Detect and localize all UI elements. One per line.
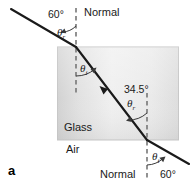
inside-top-theta-subscript: i [85,69,87,77]
top-theta-subscript: r [62,33,65,41]
bottom-normal-label: Normal [100,169,135,180]
top-normal-label: Normal [84,7,119,18]
incident-ray [11,9,76,47]
top-theta-r-label: θr [57,27,65,41]
top-incidence-angle-label: 60° [48,9,64,20]
diagram-canvas [0,0,190,186]
panel-label: a [8,164,15,177]
refracted-angle-value-label: 34.5° [124,84,149,95]
glass-medium-label: Glass [64,122,92,133]
refraction-diagram-figure: 60° Normal θr θi 34.5° θr Glass Air θi N… [0,0,190,186]
inside-bottom-theta-subscript: r [132,104,135,112]
bottom-theta-i-label: θi [152,151,159,165]
bottom-exit-angle-label: 60° [160,169,176,180]
bottom-arc-arrowhead [159,157,165,163]
inside-bottom-theta-r-label: θr [127,98,135,112]
inside-top-theta-i-label: θi [80,63,87,77]
air-medium-label: Air [66,144,79,155]
bottom-theta-subscript: i [157,157,159,165]
